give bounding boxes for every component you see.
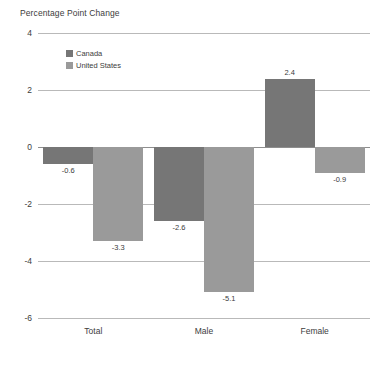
- x-axis-label-total: Total: [84, 326, 102, 336]
- bar-total-united-states: [93, 147, 143, 241]
- bar-male-canada: [154, 147, 204, 221]
- bar-value-label: -0.9: [333, 175, 346, 184]
- gridline-neg6: [38, 318, 370, 319]
- y-axis-tick-label: 2: [2, 85, 32, 95]
- chart-container: Percentage Point Change Canada United St…: [0, 0, 389, 368]
- y-axis-tick-label: 0: [2, 142, 32, 152]
- x-axis-label-female: Female: [300, 326, 328, 336]
- bar-value-label: 2.4: [284, 68, 294, 77]
- bar-value-label: -5.1: [223, 294, 236, 303]
- gridline-2: [38, 90, 370, 91]
- y-axis-tick-label: -4: [2, 256, 32, 266]
- gridline-4: [38, 33, 370, 34]
- y-axis-tick-label: -6: [2, 313, 32, 323]
- bar-female-canada: [265, 79, 315, 147]
- chart-axis-title: Percentage Point Change: [20, 8, 120, 18]
- bar-value-label: -0.6: [62, 166, 75, 175]
- y-axis-tick-label: -2: [2, 199, 32, 209]
- plot-area: [38, 33, 370, 318]
- bar-male-united-states: [204, 147, 254, 292]
- bar-female-united-states: [315, 147, 365, 173]
- bar-value-label: -2.6: [173, 223, 186, 232]
- bar-total-canada: [43, 147, 93, 164]
- bar-value-label: -3.3: [112, 243, 125, 252]
- y-axis-tick-label: 4: [2, 28, 32, 38]
- x-axis-label-male: Male: [195, 326, 213, 336]
